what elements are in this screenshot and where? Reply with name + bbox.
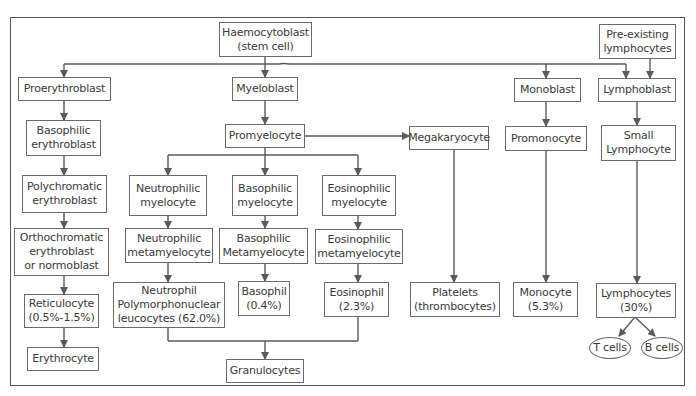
node-platelets: Platelets (thrombocytes) xyxy=(410,282,500,317)
node-proerythroblast: Proerythroblast xyxy=(18,77,111,101)
node-label: Lymphocytes xyxy=(601,287,671,301)
node-label: Eosinophil xyxy=(329,286,383,300)
node-label: Monoblast xyxy=(520,83,575,97)
node-label: (stem cell) xyxy=(237,40,293,54)
node-label: lymphocytes xyxy=(603,42,671,56)
node-label: (5.3%) xyxy=(528,300,563,314)
node-promyelocyte: Promyelocyte xyxy=(225,124,305,148)
node-small-lymphocyte: Small Lymphocyte xyxy=(601,125,676,161)
node-label: Neutrophilic xyxy=(136,182,200,196)
node-label: Myeloblast xyxy=(236,82,293,96)
node-orthochromatic-erythroblast: Orthochromatic erythroblast or normoblas… xyxy=(14,228,109,276)
node-label: erythroblast xyxy=(32,194,97,208)
node-lymphocytes: Lymphocytes (30%) xyxy=(596,283,676,318)
node-label: (30%) xyxy=(620,301,652,315)
node-label: Platelets xyxy=(432,286,478,300)
node-label: Promyelocyte xyxy=(229,129,301,143)
node-neutrophilic-metamyelocyte: Neutrophilic metamyelocyte xyxy=(125,228,213,263)
node-t-cells: T cells xyxy=(589,337,631,359)
node-label: Eosinophilic xyxy=(328,233,391,247)
node-megakaryocyte: Megakaryocyte xyxy=(409,126,489,150)
node-polychromatic-erythroblast: Polychromatic erythroblast xyxy=(22,175,107,213)
node-eosinophilic-metamyelocyte: Eosinophilic metamyelocyte xyxy=(315,229,403,264)
node-monocyte: Monocyte (5.3%) xyxy=(513,282,578,317)
node-label: Proerythroblast xyxy=(24,82,105,96)
node-label: Basophilic xyxy=(37,124,91,138)
node-label: Haemocytoblast xyxy=(222,26,309,40)
node-label: (2.3%) xyxy=(339,300,374,314)
node-label: T cells xyxy=(593,341,626,355)
node-preexisting-lymphocytes: Pre-existing lymphocytes xyxy=(599,24,676,59)
node-reticulocyte: Reticulocyte (0.5%-1.5%) xyxy=(24,294,99,328)
node-label: Lymphocyte xyxy=(606,143,671,157)
node-label: Neutrophilic xyxy=(137,232,201,246)
node-label: erythroblast xyxy=(31,138,96,152)
node-label: myelocyte xyxy=(237,196,293,210)
node-label: Erythrocyte xyxy=(32,352,94,366)
node-label: Basophilic xyxy=(238,182,292,196)
node-label: (0.5%-1.5%) xyxy=(28,311,94,325)
node-basophil: Basophil (0.4%) xyxy=(238,281,290,316)
node-basophilic-myelocyte: Basophilic myelocyte xyxy=(232,175,298,216)
node-label: Polymorphonuclear xyxy=(118,298,221,312)
node-granulocytes: Granulocytes xyxy=(226,359,304,383)
node-b-cells: B cells xyxy=(641,337,683,359)
node-label: Granulocytes xyxy=(230,364,301,378)
node-neutrophilic-myelocyte: Neutrophilic myelocyte xyxy=(129,175,207,216)
node-myeloblast: Myeloblast xyxy=(232,77,298,101)
node-label: Megakaryocyte xyxy=(408,131,490,145)
node-label: Basophil xyxy=(241,285,286,299)
node-basophilic-metamyelocyte: Basophilic Metamyelocyte xyxy=(219,228,308,264)
node-eosinophil: Eosinophil (2.3%) xyxy=(324,282,389,317)
node-label: Monocyte xyxy=(520,286,572,300)
node-neutrophil: Neutrophil Polymorphonuclear leucocytes … xyxy=(113,282,225,328)
node-promonocyte: Promonocyte xyxy=(505,126,587,151)
node-label: Basophilic xyxy=(237,232,291,246)
node-label: Orthochromatic xyxy=(20,231,103,245)
node-label: Metamyelocyte xyxy=(222,246,304,260)
node-label: myelocyte xyxy=(331,196,387,210)
node-label: (thrombocytes) xyxy=(414,300,496,314)
node-monoblast: Monoblast xyxy=(514,78,581,102)
node-label: metamyelocyte xyxy=(127,246,210,260)
node-label: Neutrophil xyxy=(141,284,196,298)
node-label: metamyelocyte xyxy=(317,247,400,261)
node-label: leucocytes (62.0%) xyxy=(118,312,220,326)
node-label: myelocyte xyxy=(140,196,196,210)
node-label: Lymphoblast xyxy=(603,83,671,97)
node-lymphoblast: Lymphoblast xyxy=(598,78,676,102)
node-eosinophilic-myelocyte: Eosinophilic myelocyte xyxy=(322,175,396,216)
node-label: Reticulocyte xyxy=(29,297,94,311)
node-label: Promonocyte xyxy=(511,132,581,146)
node-label: erythroblast xyxy=(29,245,94,259)
node-label: Small xyxy=(624,129,654,143)
node-erythrocyte: Erythrocyte xyxy=(27,347,99,371)
node-label: (0.4%) xyxy=(246,299,281,313)
node-haemocytoblast: Haemocytoblast (stem cell) xyxy=(219,22,312,57)
node-label: Eosinophilic xyxy=(328,182,391,196)
node-label: Polychromatic xyxy=(27,180,102,194)
node-label: or normoblast xyxy=(24,259,98,273)
node-label: B cells xyxy=(645,341,679,355)
node-label: Pre-existing xyxy=(606,28,668,42)
node-basophilic-erythroblast: Basophilic erythroblast xyxy=(26,120,101,156)
